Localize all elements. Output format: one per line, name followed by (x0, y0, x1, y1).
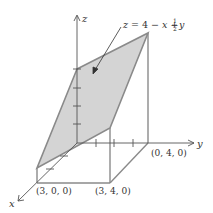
svg-text:1: 1 (173, 17, 177, 24)
diagram-canvas: z y x (3, 0, 0) (3, 4, 0) (0, 4, 0) z = … (0, 0, 213, 213)
svg-text:z = 4 − x +: z = 4 − x + (122, 19, 178, 30)
y-axis-label: y (196, 138, 203, 149)
x-axis-label: x (9, 198, 15, 209)
plane-3d-diagram: z y x (3, 0, 0) (3, 4, 0) (0, 4, 0) z = … (0, 0, 213, 213)
svg-text:2: 2 (173, 25, 177, 32)
point-label-3-0-0: (3, 0, 0) (36, 186, 72, 196)
shaded-plane (37, 33, 148, 168)
svg-text:y: y (178, 19, 185, 30)
point-label-3-4-0: (3, 4, 0) (95, 186, 131, 196)
point-label-0-4-0: (0, 4, 0) (151, 148, 187, 158)
z-axis-label: z (81, 13, 88, 24)
plane-equation-label: z = 4 − x + 1 2 y (122, 17, 185, 32)
